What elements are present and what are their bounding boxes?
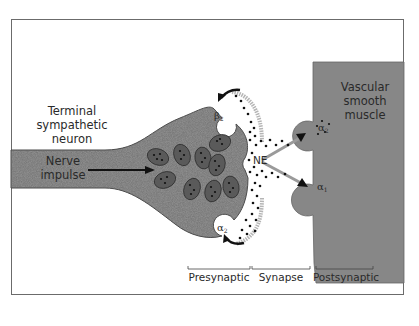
svg-text:smooth: smooth bbox=[343, 94, 386, 108]
svg-text:Vascular: Vascular bbox=[341, 80, 390, 94]
svg-text:sympathetic: sympathetic bbox=[36, 118, 107, 132]
svg-text:neuron: neuron bbox=[52, 132, 92, 146]
svg-text:muscle: muscle bbox=[344, 108, 385, 122]
nerve-impulse-label: Nerve impulse bbox=[40, 154, 85, 182]
svg-text:impulse: impulse bbox=[40, 168, 85, 182]
ne-label: NE bbox=[253, 154, 268, 166]
diagram-canvas: β2 α2 α2 α1 NE Terminal sympathetic neur… bbox=[0, 0, 419, 326]
svg-text:Nerve: Nerve bbox=[46, 154, 80, 168]
region-synapse: Synapse bbox=[259, 271, 304, 283]
muscle-label: Vascular smooth muscle bbox=[341, 80, 390, 122]
svg-text:Terminal: Terminal bbox=[47, 104, 97, 118]
region-postsynaptic: Postsynaptic bbox=[313, 271, 379, 283]
region-presynaptic: Presynaptic bbox=[189, 271, 250, 283]
